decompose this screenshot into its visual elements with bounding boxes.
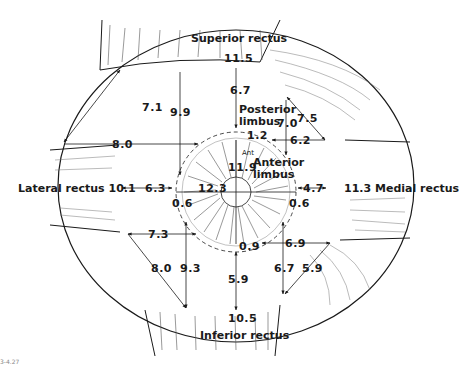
- superior-rectus-width: 11.5: [224, 53, 253, 64]
- medial-rectus-name: Medial rectus: [375, 182, 459, 195]
- m-sup-lat-horizontal: 8.0: [112, 139, 133, 150]
- m-inf-med-vertical: 6.7: [274, 263, 295, 274]
- m-limbus-width-top: 1.2: [247, 130, 268, 141]
- m-superior-to-limbus: 6.7: [230, 85, 251, 96]
- lateral-rectus-width: 10.1: [109, 182, 136, 195]
- medial-rectus-width: 11.3: [344, 182, 371, 195]
- m-sup-med-vertical: 7.0: [277, 118, 298, 129]
- m-inf-lat-horizontal: 7.3: [148, 229, 169, 240]
- m-limbus-width-lateral: 0.6: [172, 198, 193, 209]
- m-sup-med-horizontal: 6.2: [290, 135, 311, 146]
- inferior-rectus-width: 10.5: [228, 313, 257, 324]
- lateral-rectus-label: Lateral rectus 10.1: [18, 183, 136, 194]
- ant-abbrev-label: Ant: [242, 150, 254, 157]
- medial-rectus-label: 11.3 Medial rectus: [344, 183, 459, 194]
- m-limbus-width-bottom: 0.9: [239, 241, 260, 252]
- m-limbus-width-medial: 0.6: [289, 198, 310, 209]
- figure-label: 3-4.27: [0, 359, 19, 365]
- m-lateral-to-limbus: 6.3: [145, 183, 166, 194]
- m-sup-lat-vertical: 9.9: [170, 107, 191, 118]
- m-medial-to-limbus: 4.7: [303, 183, 324, 194]
- m-cornea-horizontal: 12.3: [198, 183, 227, 194]
- lateral-rectus-name: Lateral rectus: [18, 182, 105, 195]
- m-inf-med-horizontal: 6.9: [285, 238, 306, 249]
- m-cornea-vertical: 11.9: [228, 162, 257, 173]
- m-inferior-to-limbus: 5.9: [228, 274, 249, 285]
- m-inf-med-diag: 5.9: [302, 263, 323, 274]
- m-sup-med-diag: 7.5: [297, 113, 318, 124]
- m-inf-lat-diag: 8.0: [151, 263, 172, 274]
- anterior-limbus-label: Anterior limbus: [253, 157, 304, 181]
- m-sup-lat-diag: 7.1: [142, 102, 163, 113]
- inferior-rectus-label: Inferior rectus: [200, 330, 289, 341]
- inferior-medial-fibers: [310, 245, 370, 305]
- anterior-limbus-line2: limbus: [253, 169, 304, 181]
- m-inf-lat-vertical: 9.3: [180, 263, 201, 274]
- superior-rectus-label: Superior rectus: [191, 33, 287, 44]
